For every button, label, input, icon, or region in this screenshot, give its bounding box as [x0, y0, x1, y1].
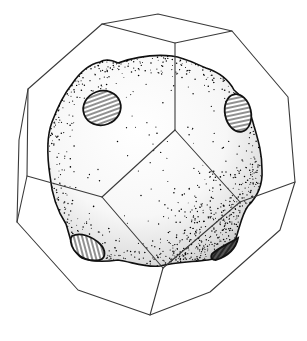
polyhedron-illustration: Stippled void inside a truncated-octahed…: [0, 0, 307, 341]
edge-bottom-spoke: [150, 268, 163, 315]
